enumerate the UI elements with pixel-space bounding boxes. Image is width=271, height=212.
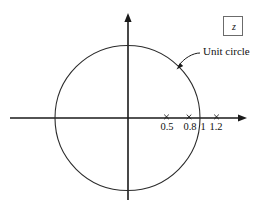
unit-circle-annotation-label: Unit circle [203, 46, 250, 57]
x-tick-label-0.5: 0.5 [160, 122, 173, 133]
x-axis-arrow-icon [238, 114, 247, 121]
x-tick-label-1: 1 [200, 122, 205, 133]
unit-circle-leader-line [179, 53, 201, 66]
complex-plane-figure: 0.5 0.8 1 1.2 Unit circle z [0, 0, 271, 212]
y-axis-arrow-icon [124, 13, 131, 22]
z-plane-box: z [223, 16, 243, 36]
x-tick-label-0.8: 0.8 [183, 122, 196, 133]
x-tick-label-1.2: 1.2 [209, 122, 222, 133]
z-plane-label: z [224, 17, 244, 37]
